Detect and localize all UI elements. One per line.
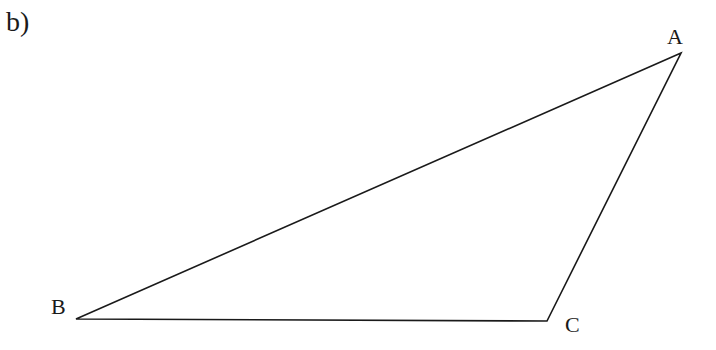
triangle-diagram: [0, 0, 716, 350]
triangle-figure: b) A B C: [0, 0, 716, 350]
vertex-label-c: C: [565, 314, 580, 336]
triangle-abc: [76, 53, 681, 321]
vertex-label-a: A: [667, 26, 683, 48]
vertex-label-b: B: [51, 296, 66, 318]
